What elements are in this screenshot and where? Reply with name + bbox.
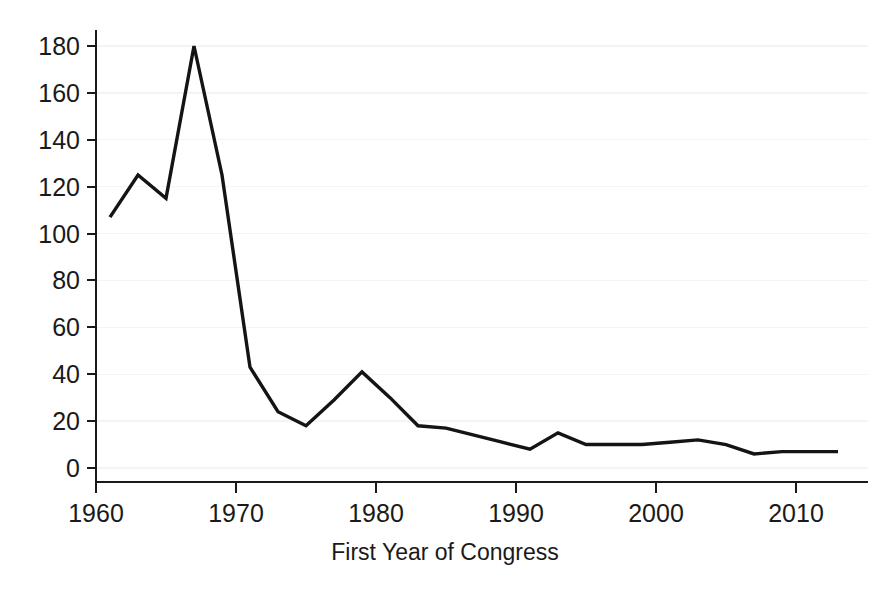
y-tick-label-5: 100 bbox=[38, 220, 80, 248]
x-tick-label-4: 2000 bbox=[628, 499, 684, 527]
x-tick-label-0: 1960 bbox=[68, 499, 124, 527]
x-tick-label-1: 1970 bbox=[208, 499, 264, 527]
chart-figure: 196019701980199020002010 020406080100120… bbox=[0, 0, 890, 595]
x-tick-label-3: 1990 bbox=[488, 499, 544, 527]
y-tick-label-1: 20 bbox=[52, 407, 80, 435]
y-tick-label-7: 140 bbox=[38, 126, 80, 154]
x-tick-label-2: 1980 bbox=[348, 499, 404, 527]
y-tick-label-6: 120 bbox=[38, 173, 80, 201]
line-chart: 196019701980199020002010 020406080100120… bbox=[0, 0, 890, 595]
x-tick-label-5: 2010 bbox=[768, 499, 824, 527]
y-tick-label-8: 160 bbox=[38, 79, 80, 107]
y-tick-label-0: 0 bbox=[66, 454, 80, 482]
chart-background bbox=[0, 0, 890, 595]
x-axis-title: First Year of Congress bbox=[331, 539, 559, 565]
y-tick-label-3: 60 bbox=[52, 313, 80, 341]
y-tick-label-9: 180 bbox=[38, 32, 80, 60]
y-tick-label-2: 40 bbox=[52, 360, 80, 388]
y-tick-label-4: 80 bbox=[52, 266, 80, 294]
